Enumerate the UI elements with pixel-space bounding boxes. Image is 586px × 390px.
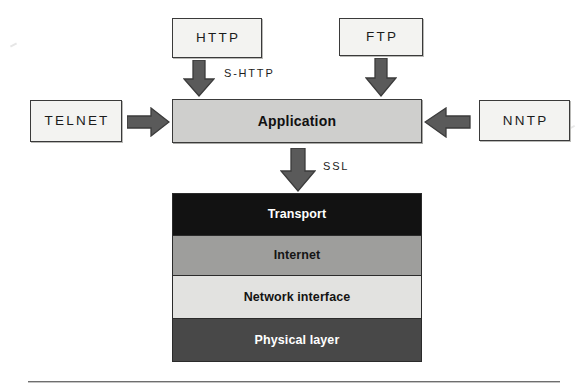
stack-layer-network-interface-label: Network interface: [244, 291, 351, 304]
stack-layer-internet-label: Internet: [274, 249, 321, 262]
arrow-http-to-application: [183, 60, 215, 97]
protocol-box-telnet-label: TELNET: [42, 114, 109, 128]
application-layer-box[interactable]: Application: [172, 99, 422, 143]
arrow-nntp-to-application: [424, 107, 471, 138]
arrow-label-s-http: S-HTTP: [224, 68, 275, 79]
application-layer-label: Application: [258, 114, 336, 128]
protocol-box-nntp[interactable]: NNTP: [479, 100, 570, 141]
stack-layer-transport-label: Transport: [268, 208, 327, 221]
scan-speck: [570, 125, 575, 129]
arrow-label-ssl: SSL: [323, 161, 349, 172]
arrow-application-to-transport: [280, 148, 316, 192]
arrow-telnet-to-application: [127, 107, 170, 137]
protocol-box-http[interactable]: HTTP: [172, 18, 262, 58]
protocol-box-nntp-label: NNTP: [501, 114, 549, 128]
stack-layer-internet[interactable]: Internet: [172, 235, 422, 275]
page-divider-rule: [28, 381, 560, 383]
scan-speck: [10, 42, 17, 47]
protocol-box-http-label: HTTP: [194, 31, 240, 45]
protocol-stack-diagram: HTTP FTP TELNET NNTP Application S-HTTP: [0, 0, 586, 390]
stack-layer-physical[interactable]: Physical layer: [172, 318, 422, 362]
stack-layer-physical-label: Physical layer: [255, 334, 340, 347]
protocol-box-telnet[interactable]: TELNET: [30, 100, 122, 142]
stack-layer-network-interface[interactable]: Network interface: [172, 275, 422, 318]
protocol-box-ftp-label: FTP: [364, 30, 398, 44]
arrow-ftp-to-application: [365, 58, 397, 97]
protocol-box-ftp[interactable]: FTP: [339, 18, 423, 56]
stack-layer-transport[interactable]: Transport: [172, 193, 422, 235]
